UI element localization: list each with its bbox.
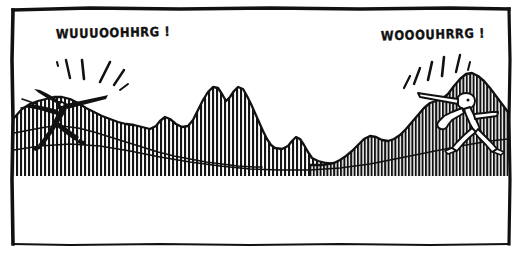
left-shout-text: WUUUOOHHRG !	[56, 26, 170, 41]
right-shout-text: WOOOUHRRG !	[381, 27, 485, 43]
comic-panel: WUUUOOHHRG ! WOOOUHRRG !	[0, 0, 522, 254]
